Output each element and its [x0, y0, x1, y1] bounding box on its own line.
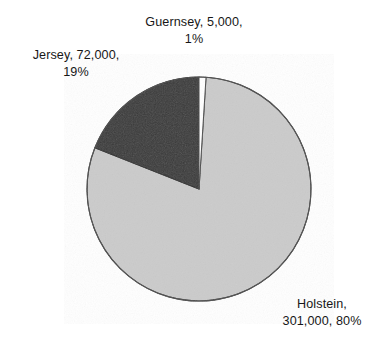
- pie-label-jersey-line1: Jersey, 72,000,: [6, 47, 146, 64]
- pie-label-jersey-line2: 19%: [6, 64, 146, 81]
- pie-label-jersey: Jersey, 72,000, 19%: [6, 47, 146, 80]
- pie-label-guernsey: Guernsey, 5,000, 1%: [118, 14, 270, 47]
- pie-label-holstein-line2: 301,000, 80%: [258, 313, 386, 330]
- pie-label-holstein: Holstein, 301,000, 80%: [258, 296, 386, 329]
- pie-label-holstein-line1: Holstein,: [258, 296, 386, 313]
- pie-label-guernsey-line2: 1%: [118, 31, 270, 48]
- pie-chart: Guernsey, 5,000, 1% Jersey, 72,000, 19% …: [0, 0, 386, 345]
- pie-label-guernsey-line1: Guernsey, 5,000,: [118, 14, 270, 31]
